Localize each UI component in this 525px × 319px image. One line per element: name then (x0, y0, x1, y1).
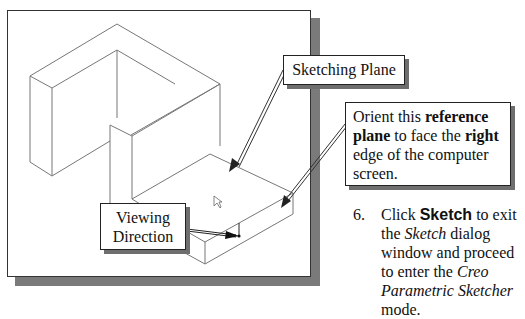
sketching-plane-callout: Sketching Plane (283, 55, 405, 85)
callout-text: Orient this (353, 108, 425, 125)
sketching-plane-label: Sketching Plane (292, 61, 396, 78)
mouse-pointer-icon (214, 196, 222, 208)
callout-bold-plane: plane (353, 127, 390, 144)
step-number: 6. (353, 205, 365, 224)
sketch-dialog-name: Sketch (405, 225, 447, 242)
callout-text: edge of the computer screen. (353, 146, 489, 182)
viewing-direction-callout: Viewing Direction (100, 203, 186, 250)
step-text: Click (381, 206, 420, 223)
callout-bold-reference: reference (425, 108, 488, 125)
viewing-direction-label-2: Direction (101, 227, 185, 246)
viewing-direction-label-1: Viewing (101, 208, 185, 227)
instruction-step: 6. Click Sketch to exit the Sketch dialo… (354, 205, 525, 319)
sketch-button-reference: Sketch (420, 206, 472, 223)
callout-text: to face the (390, 127, 465, 144)
step-text: mode. (381, 301, 421, 318)
orient-reference-plane-callout: Orient this referenceplane to face the r… (345, 102, 511, 186)
callout-bold-right: right (465, 127, 499, 144)
